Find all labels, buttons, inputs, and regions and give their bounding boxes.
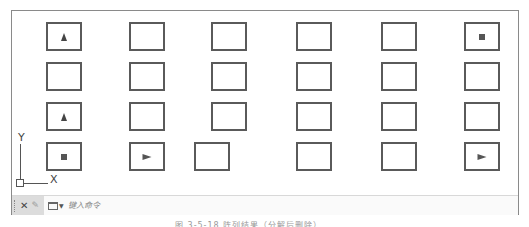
triangle-up-icon [61,33,67,41]
chevron-down-icon: ▼ [59,202,64,209]
array-rectangle[interactable] [381,102,417,131]
array-rectangle[interactable] [464,142,500,171]
ucs-origin-icon [16,179,24,187]
command-line-controls: ✕ ✎ [12,196,44,215]
drawing-canvas[interactable]: Y X [12,11,518,195]
array-rectangle[interactable] [464,62,500,91]
array-rectangle[interactable] [464,102,500,131]
square-icon [479,34,485,40]
array-rectangle[interactable] [296,62,332,91]
array-rectangle[interactable] [129,22,165,51]
array-rectangle[interactable] [296,102,332,131]
command-input[interactable] [68,201,468,210]
ucs-y-axis [20,144,21,183]
command-line: ✕ ✎ ▼ [12,195,518,215]
array-rectangle[interactable] [211,102,247,131]
array-rectangle[interactable] [129,142,165,171]
drawing-window: Y X ✕ ✎ ▼ [11,10,519,215]
square-icon [61,154,67,160]
array-rectangle[interactable] [211,62,247,91]
array-rectangle[interactable] [46,102,82,131]
ucs-y-label: Y [18,131,25,144]
ucs-x-axis [20,183,48,184]
triangle-up-icon [61,113,67,121]
array-rectangle[interactable] [211,22,247,51]
array-rectangle[interactable] [381,62,417,91]
array-rectangle[interactable] [46,62,82,91]
array-rectangle[interactable] [46,22,82,51]
array-rectangle[interactable] [129,102,165,131]
command-history-button[interactable]: ▼ [48,202,64,210]
array-rectangle[interactable] [296,142,332,171]
command-window-icon [48,202,58,210]
array-rectangle[interactable] [464,22,500,51]
ucs-x-label: X [50,173,58,186]
grip-handle-icon[interactable] [14,200,17,212]
array-rectangle[interactable] [46,142,82,171]
figure-caption: 图 3-5-18 阵列结果（分解后删除） [175,219,322,227]
triangle-right-icon [478,154,487,160]
close-icon[interactable]: ✕ [20,201,28,211]
wrench-icon[interactable]: ✎ [31,201,39,210]
array-rectangle[interactable] [296,22,332,51]
array-rectangle[interactable] [381,22,417,51]
triangle-right-icon [143,154,152,160]
array-rectangle[interactable] [129,62,165,91]
array-rectangle[interactable] [381,142,417,171]
array-rectangle[interactable] [194,142,230,171]
